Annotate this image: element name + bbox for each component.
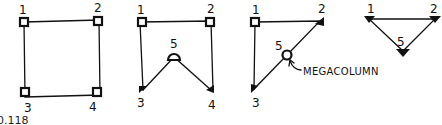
- megacolumn-annotation: MEGACOLUMN: [303, 66, 379, 77]
- v-outline-notch: [143, 57, 211, 90]
- column-label-2: 2: [318, 2, 326, 16]
- column-3-square-icon: [21, 88, 29, 96]
- column-label-4: 4: [89, 100, 97, 114]
- panel-right-triangle: 1 2 5 3 MEGACOLUMN: [251, 2, 379, 110]
- column-label-2: 2: [430, 2, 438, 16]
- panel-v: 1 2 5 3 4: [137, 2, 216, 112]
- column-1-square-icon: [20, 18, 28, 26]
- column-label-5: 5: [397, 35, 405, 49]
- column-1-square-icon: [138, 18, 146, 26]
- column-label-3: 3: [252, 96, 260, 110]
- column-label-3: 3: [24, 101, 32, 115]
- square-outline: [24, 20, 100, 97]
- column-5-triangle-icon: [396, 49, 410, 57]
- column-label-5: 5: [170, 37, 178, 51]
- column-5-round-icon: [168, 54, 180, 60]
- panel-inverted-triangle: 1 2 5: [364, 2, 441, 57]
- column-label-2: 2: [94, 1, 102, 15]
- column-label-2: 2: [207, 2, 215, 16]
- column-label-4: 4: [208, 98, 216, 112]
- column-2-square-icon: [94, 17, 102, 25]
- column-label-1: 1: [19, 3, 27, 17]
- column-label-3: 3: [137, 96, 145, 110]
- column-label-1: 1: [137, 3, 145, 17]
- annotation-arrow-line: [290, 61, 301, 70]
- column-label-1: 1: [252, 3, 260, 17]
- figure-caption: 0.118: [0, 114, 29, 125]
- column-2-square-icon: [206, 18, 214, 26]
- column-4-square-icon: [93, 88, 101, 96]
- panel-square: 1 2 3 4: [19, 1, 102, 115]
- column-label-1: 1: [367, 2, 375, 16]
- column-label-5: 5: [275, 39, 283, 53]
- structural-plan-diagram: 1 2 3 4 1 2 5 3 4 1 2 5 3 MEGACOLUMN: [0, 0, 442, 125]
- column-5-megacolumn-icon: [283, 51, 292, 60]
- column-1-square-icon: [251, 18, 259, 26]
